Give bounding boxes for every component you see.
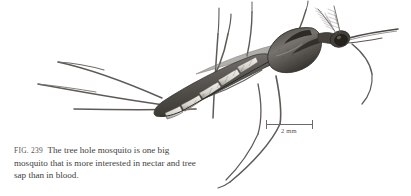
- scale-bar-line: [266, 124, 312, 125]
- figure-page: 2 mm FIG. 239 The tree hole mosquito is …: [0, 0, 411, 196]
- mosquito-thorax: [268, 28, 322, 73]
- mosquito-head: [318, 28, 398, 49]
- scale-bar-label: 2 mm: [264, 126, 314, 135]
- figure-caption: FIG. 239 The tree hole mosquito is one b…: [14, 144, 199, 181]
- scale-bar: 2 mm: [264, 118, 314, 138]
- mosquito-antennae: [315, 6, 340, 33]
- figure-number: FIG. 239: [14, 146, 43, 155]
